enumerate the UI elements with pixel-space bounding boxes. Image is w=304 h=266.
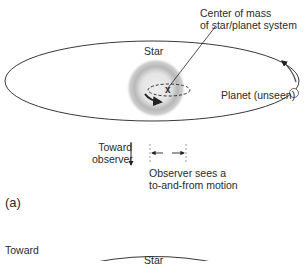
panel-b-star-label: Star (144, 254, 163, 266)
observer-sees-line2: to-and-from motion (149, 179, 238, 191)
star-label: Star (144, 45, 163, 57)
observer-sees-label: Observer sees a to-and-from motion (149, 167, 238, 191)
toward-observer-label: Toward observer (92, 141, 126, 165)
planet-label: Planet (unseen) (221, 89, 295, 101)
center-of-mass-label: Center of mass of star/planet system (200, 7, 297, 31)
center-of-mass-line2: of star/planet system (200, 19, 297, 31)
planet-motion-arrow-icon (282, 61, 296, 82)
panel-a-label: (a) (5, 197, 21, 209)
star-glow (126, 58, 186, 118)
panel-b-toward-label: Toward (5, 244, 39, 256)
center-of-mass-line1: Center of mass (200, 7, 297, 19)
toward-observer-line1: Toward (92, 141, 132, 153)
center-of-mass-pointer (168, 27, 215, 88)
center-of-mass-marker: x (165, 84, 171, 96)
toward-observer-line2: observer (92, 153, 128, 165)
observer-sees-line1: Observer sees a (149, 167, 238, 179)
